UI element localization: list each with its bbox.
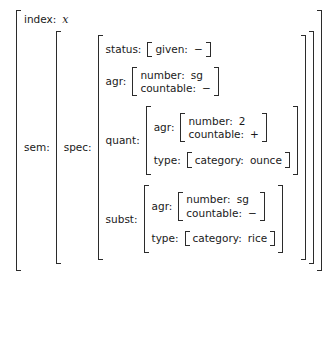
attr-category-quant: category: [195,155,244,166]
bracket-right-type-subst [270,231,275,247]
bracket-right-quant [293,106,298,175]
row-agr-top-countable: countable: − [140,82,210,96]
attr-number-agr-subst: number: [186,194,230,205]
matrix-quant: agr: number: 2 [146,106,298,175]
bracket-left-root [16,10,21,271]
matrix-root: index: x sem: spec: [16,10,322,271]
matrix-quant-rows: agr: number: 2 [154,106,290,175]
matrix-status-rows: given: − [155,42,202,58]
matrix-status: given: − [147,42,210,58]
matrix-agr-top-rows: number: sg countable: − [140,67,210,96]
attr-index: index: [24,14,56,25]
matrix-agr-subst: number: sg countable: − [178,192,264,221]
matrix-sem-rows: spec: status: [64,31,306,264]
value-index-variable: x [62,14,68,25]
row-agr-top-number: number: sg [140,68,210,82]
row-subst: subst: agr: [106,180,298,259]
matrix-agr-quant: number: 2 countable: + [180,113,266,142]
matrix-type-subst: category: rice [185,231,276,247]
bracket-left-subst [144,185,149,254]
value-countable-agr-quant: + [250,129,259,140]
row-status: status: given: − [106,37,298,63]
attr-type-quant: type: [154,155,181,166]
row-quant-type-category: category: ounce [195,153,282,167]
matrix-spec: status: given: − [98,35,306,261]
matrix-subst: agr: number: sg [144,185,284,254]
bracket-right-root [317,10,322,271]
attr-spec: spec: [64,142,92,153]
value-countable-agr-subst: − [248,208,257,219]
row-subst-agr-number: number: sg [186,193,256,207]
row-agr-top: agr: number: sg [106,62,298,101]
matrix-spec-rows: status: given: − [106,35,298,261]
attr-category-subst: category: [193,233,242,244]
attr-agr-top: agr: [106,76,127,87]
value-countable-agr-top: − [202,83,211,94]
matrix-root-rows: index: x sem: spec: [24,10,314,271]
matrix-type-quant: category: ounce [187,152,290,168]
value-category-quant: ounce [250,155,282,166]
bracket-left-agr-quant [180,113,185,142]
bracket-right-agr-top [214,67,219,96]
bracket-left-type-subst [185,231,190,247]
value-number-agr-subst: sg [237,194,249,205]
row-quant-agr: agr: number: 2 [154,108,290,147]
row-sem: sem: spec: status: [24,26,314,269]
attr-countable-agr-top: countable: [140,83,196,94]
attr-countable-agr-subst: countable: [186,208,242,219]
matrix-sem: spec: status: [56,31,314,264]
attr-status: status: [106,44,142,55]
row-quant-agr-number: number: 2 [188,114,258,128]
row-subst-agr: agr: number: sg [152,187,276,226]
attr-number-agr-quant: number: [188,116,232,127]
row-given: given: − [155,43,202,57]
bracket-right-status [206,42,211,58]
row-subst-agr-countable: countable: − [186,206,256,220]
bracket-left-sem [56,31,61,264]
row-quant-type: type: category: ounc [154,147,290,173]
bracket-right-spec [301,35,306,261]
row-index: index: x [24,12,314,26]
bracket-left-spec [98,35,103,261]
row-quant-agr-countable: countable: + [188,128,258,142]
avm-diagram: index: x sem: spec: [16,10,322,271]
bracket-right-sem [309,31,314,264]
bracket-right-subst [278,185,283,254]
bracket-left-quant [146,106,151,175]
attr-sem: sem: [24,142,50,153]
value-category-subst: rice [248,233,267,244]
attr-number-agr-top: number: [140,70,184,81]
bracket-left-agr-top [132,67,137,96]
row-quant: quant: agr: [106,101,298,180]
value-number-agr-quant: 2 [239,116,246,127]
attr-agr-quant: agr: [154,122,175,133]
bracket-right-agr-subst [260,192,265,221]
bracket-right-type-quant [285,152,290,168]
row-subst-type-category: category: rice [193,232,268,246]
value-given: − [194,44,203,55]
bracket-left-type-quant [187,152,192,168]
matrix-subst-rows: agr: number: sg [152,185,276,254]
attr-subst: subst: [106,214,138,225]
attr-agr-subst: agr: [152,201,173,212]
matrix-type-subst-rows: category: rice [193,231,268,247]
matrix-agr-subst-rows: number: sg countable: − [186,192,256,221]
attr-countable-agr-quant: countable: [188,129,244,140]
bracket-right-agr-quant [262,113,267,142]
attr-given: given: [155,44,187,55]
attr-type-subst: type: [152,233,179,244]
bracket-left-status [147,42,152,58]
matrix-type-quant-rows: category: ounce [195,152,282,168]
value-number-agr-top: sg [191,70,203,81]
attr-quant: quant: [106,135,140,146]
matrix-agr-top: number: sg countable: − [132,67,218,96]
bracket-left-agr-subst [178,192,183,221]
row-spec: spec: status: [64,33,306,262]
row-subst-type: type: category: rice [152,226,276,252]
matrix-agr-quant-rows: number: 2 countable: + [188,113,258,142]
